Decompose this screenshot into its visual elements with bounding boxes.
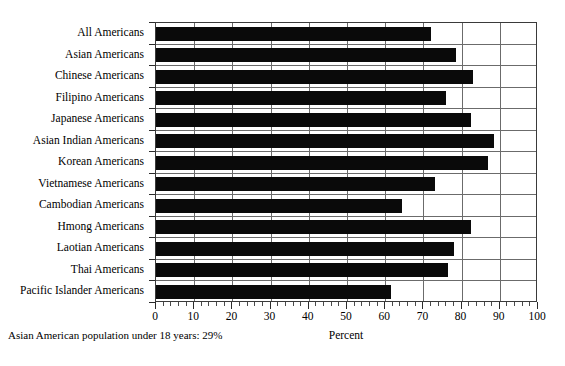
minor-tick — [430, 302, 431, 306]
bar — [156, 156, 488, 170]
minor-tick — [529, 302, 530, 306]
value-axis-title-text: Percent — [329, 329, 363, 341]
minor-tick — [338, 302, 339, 306]
value-tick-label: 10 — [187, 310, 199, 322]
minor-tick — [354, 302, 355, 306]
minor-tick — [438, 302, 439, 306]
bar-row — [156, 109, 536, 131]
value-tick-label: 80 — [455, 310, 467, 322]
minor-tick — [254, 302, 255, 306]
minor-tick — [476, 302, 477, 306]
category-label: Hmong Americans — [0, 216, 150, 238]
bar-row — [156, 45, 536, 67]
minor-tick — [522, 302, 523, 306]
minor-tick — [399, 302, 400, 306]
category-label: All Americans — [0, 22, 150, 44]
major-tick — [461, 302, 462, 309]
category-label: Asian Americans — [0, 44, 150, 66]
minor-tick — [239, 302, 240, 306]
minor-tick — [392, 302, 393, 306]
category-label: Cambodian Americans — [0, 194, 150, 216]
bar-chart: All Americans Asian Americans Chinese Am… — [0, 0, 565, 366]
bar-row — [156, 238, 536, 260]
bar-rows — [156, 23, 536, 301]
minor-tick — [208, 302, 209, 306]
category-label: Thai Americans — [0, 259, 150, 281]
bar-row — [156, 195, 536, 217]
value-tick-label: 90 — [493, 310, 505, 322]
bar — [156, 199, 402, 213]
bar-row — [156, 174, 536, 196]
minor-tick — [323, 302, 324, 306]
category-label: Laotian Americans — [0, 237, 150, 259]
minor-tick — [369, 302, 370, 306]
bar — [156, 91, 446, 105]
minor-tick — [170, 302, 171, 306]
value-axis-ticks — [155, 302, 537, 310]
major-tick — [193, 302, 194, 309]
category-label: Vietnamese Americans — [0, 173, 150, 195]
minor-tick — [247, 302, 248, 306]
chart-footnote: Asian American population under 18 years… — [8, 329, 222, 341]
major-tick — [270, 302, 271, 309]
bar — [156, 134, 494, 148]
value-axis-labels: 0102030405060708090100 — [0, 310, 565, 328]
major-tick — [537, 302, 538, 309]
bar-row — [156, 217, 536, 239]
value-tick-label: 50 — [340, 310, 352, 322]
minor-tick — [178, 302, 179, 306]
bar — [156, 220, 471, 234]
minor-tick — [201, 302, 202, 306]
bar-row — [156, 152, 536, 174]
value-tick-label: 100 — [528, 310, 545, 322]
major-tick — [346, 302, 347, 309]
bar-row — [156, 66, 536, 88]
minor-tick — [491, 302, 492, 306]
bar-row — [156, 88, 536, 110]
bar — [156, 177, 435, 191]
bar-row — [156, 23, 536, 45]
bar-row — [156, 260, 536, 282]
major-tick — [384, 302, 385, 309]
minor-tick — [415, 302, 416, 306]
minor-tick — [468, 302, 469, 306]
minor-tick — [331, 302, 332, 306]
category-axis-labels: All Americans Asian Americans Chinese Am… — [0, 22, 150, 302]
value-tick-label: 40 — [302, 310, 314, 322]
bar — [156, 242, 454, 256]
minor-tick — [224, 302, 225, 306]
minor-tick — [262, 302, 263, 306]
minor-tick — [377, 302, 378, 306]
category-label: Asian Indian Americans — [0, 130, 150, 152]
minor-tick — [506, 302, 507, 306]
value-tick-label: 60 — [378, 310, 390, 322]
minor-tick — [300, 302, 301, 306]
value-tick-label: 70 — [417, 310, 429, 322]
minor-tick — [484, 302, 485, 306]
major-tick — [499, 302, 500, 309]
value-tick-label: 0 — [152, 310, 158, 322]
major-tick — [155, 302, 156, 309]
bar-row — [156, 281, 536, 303]
minor-tick — [216, 302, 217, 306]
minor-tick — [407, 302, 408, 306]
value-tick-label: 30 — [264, 310, 276, 322]
minor-tick — [186, 302, 187, 306]
category-label: Korean Americans — [0, 151, 150, 173]
minor-tick — [277, 302, 278, 306]
minor-tick — [361, 302, 362, 306]
plot-area — [155, 22, 537, 302]
minor-tick — [514, 302, 515, 306]
major-tick — [231, 302, 232, 309]
major-tick — [308, 302, 309, 309]
minor-tick — [285, 302, 286, 306]
minor-tick — [293, 302, 294, 306]
category-label: Japanese Americans — [0, 108, 150, 130]
bar — [156, 263, 448, 277]
bar — [156, 27, 431, 41]
minor-tick — [315, 302, 316, 306]
bar — [156, 48, 456, 62]
category-label: Pacific Islander Americans — [0, 280, 150, 302]
bar-row — [156, 131, 536, 153]
minor-tick — [445, 302, 446, 306]
